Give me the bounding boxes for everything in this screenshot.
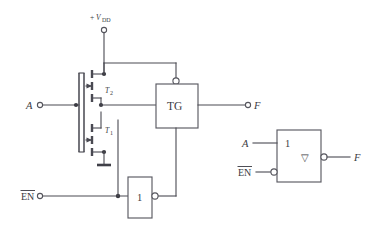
shared-gate-electrode (79, 73, 84, 152)
figure-canvas: + V DD T 2 (0, 0, 370, 235)
supply-terminal-circle (101, 27, 106, 32)
t1-label-subscript: 1 (110, 130, 113, 136)
symbol-input-a-label: A (241, 138, 249, 149)
transmission-gate-box[interactable]: TG (156, 84, 198, 128)
symbol-output-f-label: F (353, 152, 361, 163)
t2-label-subscript: 2 (110, 90, 113, 96)
input-a-terminal-circle[interactable] (37, 102, 42, 107)
tg-bottom-control-group (156, 128, 176, 196)
output-f-group: F (198, 100, 261, 111)
symbol-enable-label: EN (238, 167, 251, 178)
logic-symbol-group: 1 ▽ A EN F (238, 130, 362, 182)
symbol-box-label: 1 (285, 138, 290, 149)
tristate-marker-glyph: ▽ (301, 152, 309, 163)
transistor-t1: T 1 (86, 112, 113, 165)
output-f-terminal-circle[interactable] (245, 102, 250, 107)
circuit-schematic: + V DD T 2 (0, 0, 370, 235)
supply-label-group: + V DD (90, 13, 111, 23)
inverter-output-node (99, 103, 156, 107)
supply-subscript-label: DD (102, 17, 111, 23)
tg-control-bubble (173, 78, 179, 84)
input-a-label: A (25, 100, 33, 111)
input-a-group: A (25, 100, 79, 111)
symbol-box-outline[interactable] (277, 130, 321, 182)
enable-terminal-circle[interactable] (37, 193, 42, 198)
symbol-enable-bubble (271, 169, 277, 175)
tg-control-top-wire-group (104, 63, 179, 84)
inverter-output-bubble (152, 193, 158, 199)
inverter-box-label: 1 (137, 192, 142, 203)
output-f-label: F (253, 100, 261, 111)
supply-plus-sign: + (90, 13, 94, 22)
tg-box-label: TG (167, 100, 182, 112)
enable-label: EN (21, 191, 34, 202)
symbol-output-bubble (321, 154, 327, 160)
transistor-t2: T 2 (86, 70, 113, 105)
inverter-box[interactable]: 1 (128, 177, 158, 218)
input-a-gate-junction-dot (74, 103, 78, 107)
